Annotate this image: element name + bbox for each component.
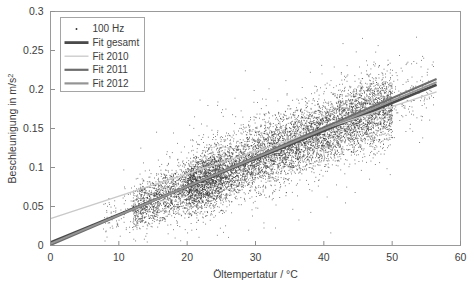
legend[interactable]: 100 HzFit gesamtFit 2010Fit 2011Fit 2012: [61, 18, 145, 92]
fit-line-fit-2012: [51, 82, 437, 243]
y-tick-label: 0: [38, 239, 44, 251]
legend-marker-icon: [76, 28, 78, 30]
x-tick-label: 40: [318, 251, 330, 263]
scatter-plot: 010203040506000.050.10.150.20.250.3Öltem…: [0, 0, 474, 283]
y-tick-label: 0.15: [23, 122, 44, 134]
x-axis-title: Öltempertatur / °C: [213, 268, 298, 280]
x-tick-label: 50: [386, 251, 398, 263]
y-tick-label: 0.3: [29, 5, 44, 17]
fit-line-fit-2010: [51, 92, 437, 219]
x-tick-label: 30: [250, 251, 262, 263]
y-tick-label: 0.1: [29, 161, 44, 173]
y-axis-title: Beschleunigung in m/s2: [6, 74, 19, 184]
x-tick-label: 20: [181, 251, 193, 263]
x-tick-label: 60: [455, 251, 467, 263]
chart-figure: 010203040506000.050.10.150.20.250.3Öltem…: [0, 0, 474, 283]
y-tick-label: 0.05: [23, 200, 44, 212]
legend-label: Fit 2012: [93, 78, 130, 89]
x-tick-label: 0: [48, 251, 54, 263]
y-tick-label: 0.2: [29, 83, 44, 95]
scatter-points: [103, 37, 434, 242]
fit-lines-layer: [51, 79, 437, 245]
x-tick-label: 10: [113, 251, 125, 263]
legend-label: 100 Hz: [93, 23, 125, 34]
legend-label: Fit 2010: [93, 51, 130, 62]
legend-label: Fit 2011: [93, 64, 129, 75]
scatter-points-layer: [103, 37, 434, 242]
y-tick-label: 0.25: [23, 44, 44, 56]
legend-label: Fit gesamt: [93, 37, 140, 48]
